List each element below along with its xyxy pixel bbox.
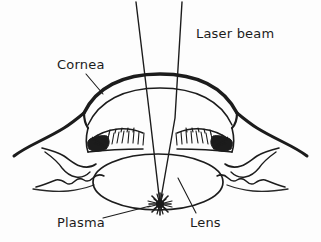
laser-beam-rays <box>136 2 182 204</box>
eye-laser-diagram: Laser beam Cornea Plasma Lens <box>0 0 321 242</box>
sclera-conjunctiva <box>14 113 307 191</box>
label-laser-beam: Laser beam <box>196 27 274 40</box>
label-cornea: Cornea <box>57 58 105 71</box>
label-lens: Lens <box>190 216 221 229</box>
plasma-spark <box>148 193 172 215</box>
label-plasma: Plasma <box>57 216 105 229</box>
cornea-arc <box>84 74 237 128</box>
leader-cornea <box>86 74 103 94</box>
leader-plasma <box>103 206 150 218</box>
ciliary-body <box>88 135 233 151</box>
